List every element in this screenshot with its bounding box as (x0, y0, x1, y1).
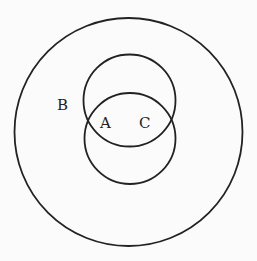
circle-upper-a (84, 55, 176, 147)
circle-lower-c (85, 93, 176, 184)
label-b: B (57, 96, 68, 114)
label-c: C (139, 114, 150, 132)
venn-diagram: B A C (0, 0, 257, 261)
label-a: A (99, 114, 111, 132)
circle-outer-b (15, 18, 243, 246)
